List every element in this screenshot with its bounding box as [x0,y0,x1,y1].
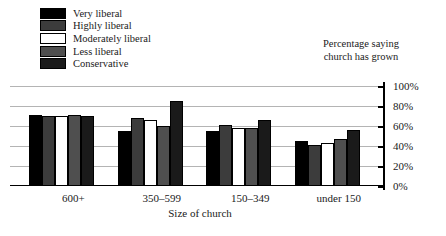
y-axis-tick [378,186,385,188]
bar [308,145,321,186]
y-axis-tick [378,86,385,88]
bar [157,126,170,186]
legend-item: Highly liberal [40,20,210,33]
bar [206,131,219,186]
y-tick-label: 80% [393,100,413,112]
bar [170,101,183,186]
legend-swatch-very-liberal [40,8,66,19]
chart-title-line-2: church has grown [286,51,436,64]
legend-item: Conservative [40,57,210,70]
x-tick-label: 150–349 [206,192,295,204]
legend-item: Very liberal [40,7,210,20]
bar [42,116,55,186]
legend-label-very-liberal: Very liberal [73,8,122,19]
bar [347,130,360,186]
bar-group [206,86,295,186]
legend-item: Less liberal [40,45,210,58]
legend-swatch-less-liberal [40,46,66,57]
bar [232,128,245,186]
y-axis-tick [378,166,385,168]
chart-page: Very liberal Highly liberal Moderately l… [0,0,446,236]
legend-swatch-highly-liberal [40,20,66,31]
bar [334,139,347,186]
bar [68,115,81,186]
bar [131,118,144,186]
plot-area [10,86,383,186]
bar [219,125,232,186]
y-axis-tick [378,106,385,108]
bar [258,120,271,186]
legend-swatch-conservative [40,58,66,69]
legend-swatch-moderately-liberal [40,33,66,44]
x-tick-label: under 150 [295,192,384,204]
chart-title: Percentage saying church has grown [286,38,436,63]
bar [295,141,308,186]
y-tick-label: 0% [393,180,408,192]
legend-label-conservative: Conservative [73,58,128,69]
chart-legend: Very liberal Highly liberal Moderately l… [40,7,210,70]
chart-title-line-1: Percentage saying [286,38,436,51]
legend-item: Moderately liberal [40,32,210,45]
y-axis-tick [378,126,385,128]
bar-group [118,86,207,186]
bar [144,120,157,186]
x-tick-label: 350–599 [118,192,207,204]
legend-label-moderately-liberal: Moderately liberal [73,33,151,44]
bar-groups [29,86,383,186]
y-tick-label: 60% [393,120,413,132]
bar-group [29,86,118,186]
bar [321,143,334,186]
y-tick-label: 100% [393,80,419,92]
bar [245,128,258,186]
y-tick-label: 40% [393,140,413,152]
bar [55,116,68,186]
x-axis-title: Size of church [0,207,400,219]
legend-label-less-liberal: Less liberal [73,46,122,57]
bar [118,131,131,186]
bar [29,115,42,186]
y-axis-tick [378,146,385,148]
bar-group [295,86,384,186]
legend-label-highly-liberal: Highly liberal [73,20,132,31]
bar [81,116,94,186]
y-tick-label: 20% [393,160,413,172]
y-axis [383,82,385,190]
x-tick-label: 600+ [29,192,118,204]
axis-baseline [10,185,383,187]
x-tick-labels: 600+350–599150–349under 150 [29,192,383,204]
